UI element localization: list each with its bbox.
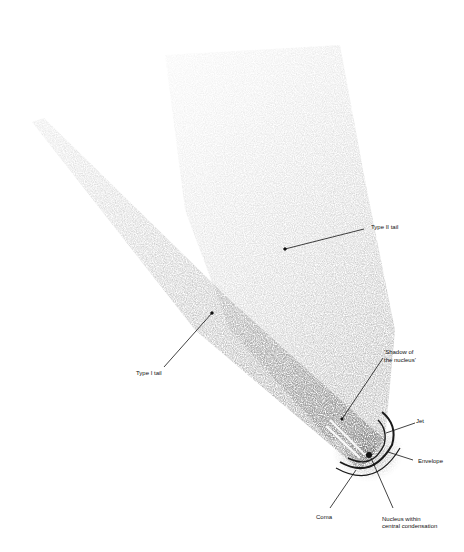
coma-label: Coma xyxy=(316,514,332,521)
type1-tail-label: Type I tail xyxy=(136,370,162,377)
nucleus-label-1: Nucleus within xyxy=(382,516,421,523)
nucleus-label-2: central condensation xyxy=(382,523,437,530)
type2-tail-label: Type II tail xyxy=(371,224,398,231)
envelope-label: Envelope xyxy=(418,458,443,465)
nucleus-dot xyxy=(366,452,372,458)
jet-label: Jet xyxy=(416,418,424,425)
comet-diagram xyxy=(0,0,464,552)
shadow-of-nucleus-label-2: the nucleus' xyxy=(384,357,416,364)
shadow-of-nucleus-label-1: 'Shadow of xyxy=(384,349,414,356)
